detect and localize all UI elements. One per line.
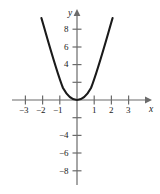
x-axis-arrow-icon <box>145 97 152 104</box>
x-tick-label-2: 2 <box>109 106 114 115</box>
x-tick-label-1: 1 <box>92 106 97 115</box>
y-tick-label-6: 6 <box>64 43 69 52</box>
y-axis <box>74 9 81 185</box>
y-axis-arrow-icon <box>74 9 81 16</box>
x-tick-label-3: 3 <box>126 106 131 115</box>
y-tick-label--8: −8 <box>59 167 69 176</box>
y-tick-label--4: −4 <box>59 131 69 140</box>
x-tick-label--3: −3 <box>19 106 29 115</box>
y-tick-label--6: −6 <box>59 149 69 158</box>
parabola-figure: −3 −2 −1 1 2 3 8 6 4 −4 −6 −8 y x <box>0 0 160 194</box>
x-axis-label: x <box>149 105 153 115</box>
x-tick-label--1: −1 <box>53 106 63 115</box>
x-tick-label--2: −2 <box>36 106 46 115</box>
y-axis-label: y <box>68 9 72 19</box>
y-tick-label-4: 4 <box>64 60 69 69</box>
chart-canvas <box>0 0 160 194</box>
y-tick-label-8: 8 <box>64 25 69 34</box>
